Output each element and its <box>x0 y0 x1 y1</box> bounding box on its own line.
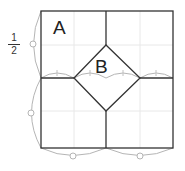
marker-left-upper <box>30 41 36 47</box>
marker-left-lower <box>28 110 34 116</box>
label-a: A <box>53 17 66 39</box>
arc-markers <box>28 41 143 159</box>
fraction-half: 1 2 <box>8 33 20 56</box>
label-b: B <box>95 56 108 78</box>
marker-bottom-left <box>70 153 76 159</box>
fraction-numerator: 1 <box>8 33 20 43</box>
marker-bottom-right <box>137 153 143 159</box>
fraction-denominator: 2 <box>8 46 20 56</box>
geometry-diagram <box>0 0 185 171</box>
